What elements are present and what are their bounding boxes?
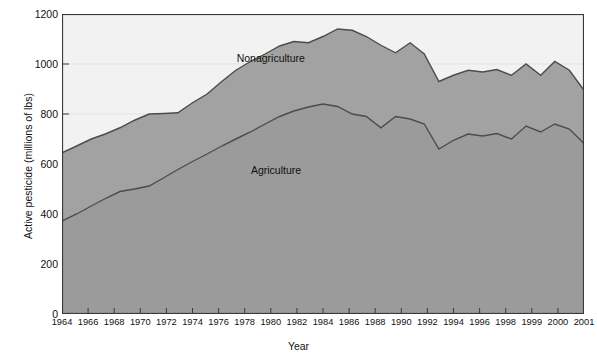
nonagriculture-label: Nonagriculture [237, 52, 305, 64]
y-tick-label: 1000 [24, 59, 58, 70]
area-chart-svg: Nonagriculture Agriculture [62, 14, 584, 314]
x-axis-title: Year [0, 340, 597, 352]
y-axis-ticks: 1200 1000 800 600 400 200 0 [20, 0, 58, 360]
x-tick-label: 2001 [567, 318, 597, 327]
x-axis-ticks: 1964196619681970197219741976197819801982… [0, 318, 597, 334]
y-tick-label: 800 [24, 109, 58, 120]
y-tick-label: 200 [24, 259, 58, 270]
plot-area: Nonagriculture Agriculture [62, 14, 584, 314]
y-tick-label: 1200 [24, 9, 58, 20]
y-tick-label: 400 [24, 209, 58, 220]
agriculture-label: Agriculture [251, 164, 301, 176]
y-tick-label: 600 [24, 159, 58, 170]
chart-page: Active pesticide (millions of lbs) 1200 … [0, 0, 597, 360]
